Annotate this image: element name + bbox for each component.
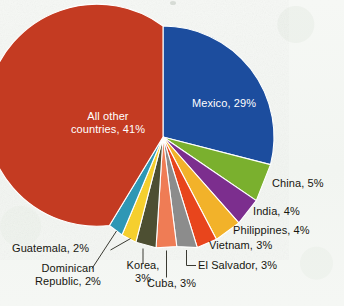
slice-label-guatemala: Guatemala, 2% xyxy=(12,242,89,255)
slice-label-all-other-countries: All other countries, 41% xyxy=(60,110,156,136)
slice-label-el-salvador: El Salvador, 3% xyxy=(198,259,277,272)
korea-line-2: 3% xyxy=(135,272,151,284)
all-other-line-1: All other xyxy=(87,110,128,122)
leader-line-el-salvador xyxy=(187,250,197,266)
all-other-line-2: countries, 41% xyxy=(71,123,145,135)
slice-label-india: India, 4% xyxy=(253,205,300,218)
leader-line-guatemala xyxy=(111,239,131,250)
korea-line-1: Korea, xyxy=(126,259,159,271)
slice-label-mexico: Mexico, 29% xyxy=(192,97,256,110)
slice-label-philippines: Philippines, 4% xyxy=(233,224,310,237)
pie-chart-svg xyxy=(0,0,344,306)
slice-label-vietnam: Vietnam, 3% xyxy=(209,239,272,252)
slice-label-china: China, 5% xyxy=(272,177,324,190)
slice-label-dominican-republic: Dominican Republic, 2% xyxy=(25,262,111,288)
dominican-line-2: Republic, 2% xyxy=(35,275,101,287)
slice-label-korea: Korea, 3% xyxy=(122,259,164,285)
chart-figure: Mexico, 29% All other countries, 41% Chi… xyxy=(0,0,344,306)
dominican-line-1: Dominican xyxy=(42,262,95,274)
